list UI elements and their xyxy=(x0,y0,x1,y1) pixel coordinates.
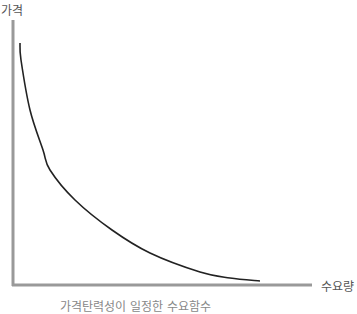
y-axis-label: 가격 xyxy=(1,1,23,18)
x-axis-label: 수요량 xyxy=(321,277,354,294)
demand-curve xyxy=(20,43,260,281)
chart-caption: 가격탄력성이 일정한 수요함수 xyxy=(60,297,290,314)
